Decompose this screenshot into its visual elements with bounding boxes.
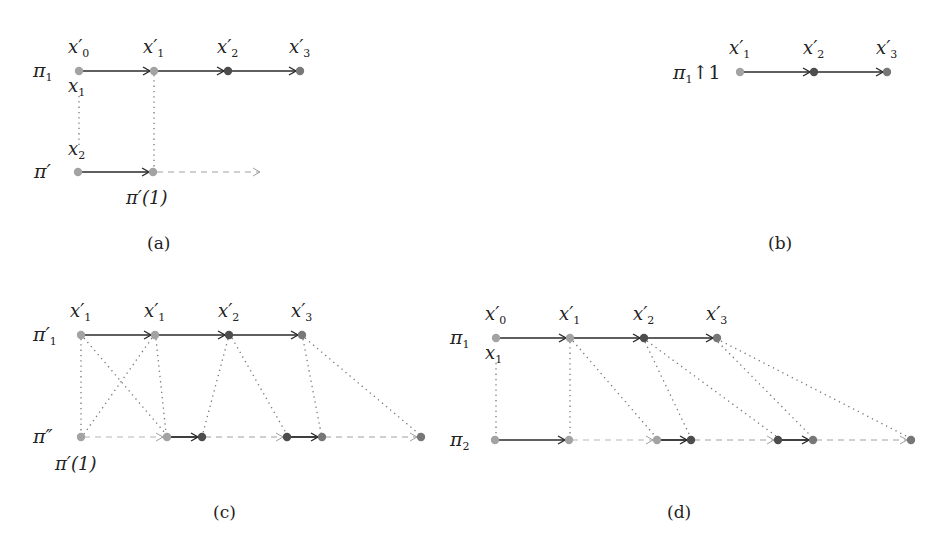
row-label-pi2: π2 <box>449 428 470 453</box>
caption-d: (d) <box>667 502 691 522</box>
node <box>565 436 573 444</box>
node <box>225 331 233 339</box>
node-label: x′3 <box>289 36 310 60</box>
node-label: x′2 <box>218 300 239 324</box>
node <box>491 436 499 444</box>
node <box>296 67 304 75</box>
panel-d: π1 π2 x′0 x′1 x′2 x′3 x1 (d) <box>449 303 915 522</box>
node-label: x′1 <box>143 36 164 60</box>
bottom-label: π′(1) <box>125 187 167 208</box>
caption-a: (a) <box>147 233 170 253</box>
node <box>774 436 782 444</box>
caption-b: (b) <box>768 233 792 253</box>
node-label: x′2 <box>217 36 238 60</box>
row-label-pi1: π1 <box>449 326 470 351</box>
row-label-pi-double-prime: π″ <box>32 425 53 447</box>
node <box>687 436 695 444</box>
node <box>151 331 159 339</box>
node <box>198 433 206 441</box>
node-label: x′3 <box>291 300 312 324</box>
panel-a: π1 π′ x′0 x′1 x′2 x′3 x1 x2 π′(1) (a) <box>32 36 310 253</box>
node-label: x′2 <box>803 37 824 61</box>
node-label: x′1 <box>144 300 165 324</box>
panel-b: π1↑1 x′1 x′2 x′3 (b) <box>672 37 897 253</box>
node <box>640 334 648 342</box>
node <box>224 67 232 75</box>
node-label: x1 <box>68 75 85 99</box>
panel-c: π′1 π″ x′1 x′1 x′2 x′3 π′(1) (c) <box>32 300 425 522</box>
node <box>74 168 82 176</box>
node <box>77 433 85 441</box>
node-label: x2 <box>68 138 85 162</box>
node-label: x′3 <box>706 303 727 327</box>
node-label: x1 <box>485 342 502 366</box>
node-label: x′1 <box>729 37 750 61</box>
node <box>150 67 158 75</box>
node-label: x′3 <box>876 37 897 61</box>
node <box>149 168 157 176</box>
row-label-pi1-up-1: π1↑1 <box>672 61 721 86</box>
node <box>75 67 83 75</box>
node <box>163 433 171 441</box>
caption-c: (c) <box>213 502 236 522</box>
node <box>883 68 891 76</box>
bottom-label: π′(1) <box>54 453 96 474</box>
node <box>417 433 425 441</box>
node <box>713 334 721 342</box>
node <box>298 331 306 339</box>
node <box>318 433 326 441</box>
diagram-canvas: π1 π′ x′0 x′1 x′2 x′3 x1 x2 π′(1) (a) π1… <box>0 0 945 553</box>
node-label: x′1 <box>559 303 580 327</box>
node-label: x′0 <box>485 303 506 327</box>
node <box>907 436 915 444</box>
row-label-pi1-prime: π′1 <box>32 323 57 348</box>
node <box>810 68 818 76</box>
node <box>809 436 817 444</box>
node <box>77 331 85 339</box>
row-label-pi1: π1 <box>32 59 53 84</box>
row-label-pi-prime: π′ <box>33 160 51 182</box>
node-label: x′0 <box>68 36 89 60</box>
node <box>283 433 291 441</box>
node-label: x′2 <box>633 303 654 327</box>
node-label: x′1 <box>70 300 91 324</box>
node <box>492 334 500 342</box>
node <box>736 68 744 76</box>
node <box>653 436 661 444</box>
node <box>566 334 574 342</box>
